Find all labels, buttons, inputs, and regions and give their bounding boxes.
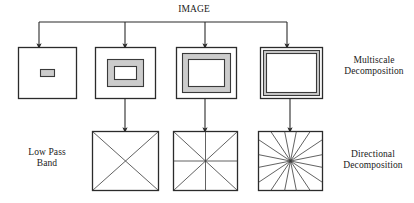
scale-band-4 [261, 48, 323, 99]
multiscale-boxes-group [19, 48, 323, 99]
scale-band-3 [177, 48, 237, 99]
scale-band-1 [19, 48, 77, 99]
scale-band-2-ring-2 [115, 67, 137, 80]
image-distribution-bus [39, 22, 287, 46]
directional-band-16dir [259, 132, 323, 191]
scale-band-4-ring-2 [267, 54, 317, 93]
scale-band-3-ring-2 [189, 60, 225, 87]
directional-band-4dir [93, 132, 159, 191]
multiscale-decomposition-label: Multiscale Decomposition [334, 55, 414, 77]
directional-decomposition-label: Directional Decomposition [332, 149, 414, 171]
diagram-canvas [0, 0, 414, 203]
image-label: IMAGE [144, 4, 244, 15]
directional-band-8dir [174, 132, 238, 191]
scale-band-2 [96, 48, 156, 99]
scale-band-1-ring-1 [41, 70, 55, 77]
decomposition-diagram: IMAGE Multiscale Decomposition Direction… [0, 0, 414, 203]
directional-boxes-group [93, 132, 323, 191]
low-pass-band-label: Low Pass Band [14, 147, 80, 169]
scale-to-direction-arrows [125, 98, 290, 130]
